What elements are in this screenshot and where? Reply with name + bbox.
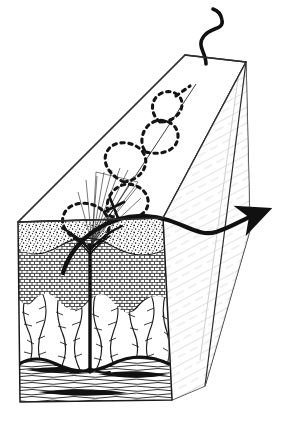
skin-block-diagram bbox=[0, 0, 286, 431]
top-squiggle bbox=[201, 9, 222, 64]
tissue-layers bbox=[10, 214, 180, 408]
figure-root: Skin block diagram with helical penetrat… bbox=[0, 0, 286, 431]
